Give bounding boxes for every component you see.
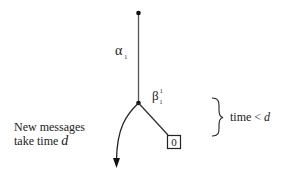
take-time-label: take time d (14, 133, 69, 148)
message-timing-diagram: 0 α1 β11 time < d New messages take time… (0, 0, 289, 174)
new-messages-label: New messages (14, 120, 85, 134)
beta-label: β11 (152, 88, 163, 105)
right-brace-icon (212, 98, 223, 136)
beta-edge (139, 103, 169, 135)
box-value: 0 (171, 136, 177, 148)
alpha-label: α1 (115, 43, 127, 60)
top-node (136, 11, 141, 16)
brace-label: time < d (230, 110, 271, 124)
arrow-head-icon (113, 158, 120, 168)
new-message-edge (117, 103, 139, 160)
